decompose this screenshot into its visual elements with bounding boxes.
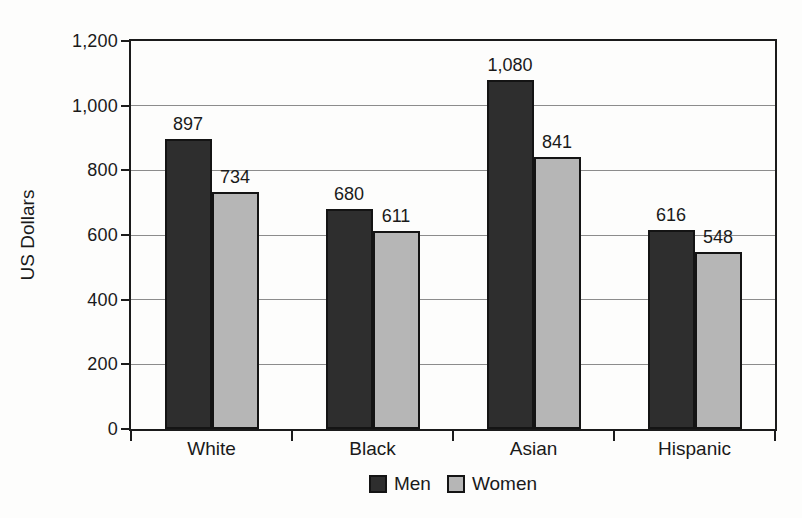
bar-women-black <box>373 231 420 429</box>
bar-men-hispanic <box>648 230 695 429</box>
bar-value-label-women-white: 734 <box>190 166 280 188</box>
bar-women-white <box>212 192 259 429</box>
gridline-1000 <box>131 105 775 106</box>
x-axis-label-hispanic: Hispanic <box>630 438 760 460</box>
bar-value-label-men-black: 680 <box>304 183 394 205</box>
y-tick-label-1000: 1,000 <box>18 94 118 118</box>
bar-value-label-men-hispanic: 616 <box>626 204 716 226</box>
x-tick-mark-0 <box>130 430 132 441</box>
legend-item-men: Men <box>369 473 431 495</box>
legend-item-women: Women <box>447 473 537 495</box>
plot-border-top <box>129 39 777 41</box>
legend-swatch-men <box>369 475 387 493</box>
x-tick-mark-4 <box>774 430 776 441</box>
x-axis-label-white: White <box>147 438 277 460</box>
bar-women-asian <box>534 157 581 429</box>
y-tick-label-800: 800 <box>18 158 118 182</box>
bar-men-black <box>326 209 373 429</box>
bar-value-label-women-hispanic: 548 <box>673 226 763 248</box>
y-tick-label-1200: 1,200 <box>18 29 118 53</box>
legend-label-women: Women <box>472 473 537 495</box>
grouped-bar-chart-figure: US Dollars 02004006008001,0001,200 89773… <box>0 0 802 518</box>
plot-border-right <box>775 39 777 431</box>
bar-value-label-women-black: 611 <box>351 205 441 227</box>
legend-label-men: Men <box>394 473 431 495</box>
y-tick-label-400: 400 <box>18 288 118 312</box>
legend: MenWomen <box>131 472 775 496</box>
bar-value-label-men-white: 897 <box>143 113 233 135</box>
y-axis-line <box>129 39 131 431</box>
x-tick-mark-2 <box>452 430 454 441</box>
x-axis-label-asian: Asian <box>469 438 599 460</box>
x-tick-mark-1 <box>291 430 293 441</box>
bar-value-label-men-asian: 1,080 <box>465 54 555 76</box>
legend-swatch-women <box>447 475 465 493</box>
x-axis-label-black: Black <box>308 438 438 460</box>
bar-value-label-women-asian: 841 <box>512 131 602 153</box>
y-tick-label-0: 0 <box>18 417 118 441</box>
x-axis-line <box>129 429 777 431</box>
bar-women-hispanic <box>695 252 742 429</box>
x-tick-mark-3 <box>613 430 615 441</box>
y-tick-label-600: 600 <box>18 223 118 247</box>
y-tick-label-200: 200 <box>18 352 118 376</box>
